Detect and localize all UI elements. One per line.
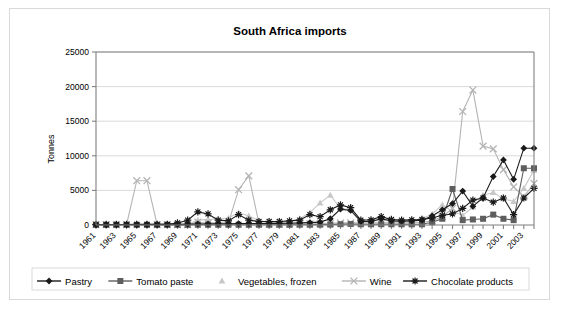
series-line [96,188,534,224]
data-point-marker [337,221,343,227]
data-series-layer [92,87,537,228]
data-point-marker [450,186,456,192]
y-tick-label: 5000 [70,185,89,195]
data-point-marker [490,199,497,206]
data-point-marker [490,189,497,195]
y-tick-label: 25000 [65,47,89,57]
series-line [96,148,534,224]
legend-label: Vegetables, frozen [238,276,317,287]
legend-label: Wine [370,276,392,287]
chart-title-group: South Africa imports [233,25,346,37]
data-point-marker [510,184,517,191]
chart-title: South Africa imports [233,25,346,37]
y-tick-label: 15000 [65,116,89,126]
series-line [96,170,534,224]
data-point-marker [317,199,324,205]
legend-label: Chocolate products [431,276,513,287]
data-point-marker [235,211,242,218]
data-point-marker [470,216,476,222]
data-point-marker [490,145,497,152]
data-point-marker [204,210,211,217]
data-point-marker [510,211,517,218]
y-axis-label-group: Tonnes [46,134,56,164]
x-tick-label: 1977 [240,230,261,251]
grid-lines [96,52,534,190]
x-tick-label: 1961 [77,230,98,251]
x-tick-label: 1963 [97,230,118,251]
data-point-marker [348,221,354,227]
x-tick-label: 2001 [484,230,505,251]
x-tick-label: 1995 [423,230,444,251]
x-tick-label: 1965 [118,230,139,251]
chart-legend: PastryTomato pasteVegetables, frozenWine… [32,268,529,290]
x-tick-label: 1993 [403,230,424,251]
x-tick-label: 2003 [505,230,526,251]
x-tick-label: 1997 [444,230,465,251]
x-axis-ticks: 1961196319651967196919711973197519771979… [77,225,534,251]
data-point-marker [490,212,496,218]
data-point-marker [520,145,527,152]
x-tick-label: 1973 [199,230,220,251]
data-point-marker [460,217,466,223]
y-tick-label: 0 [84,220,89,230]
x-tick-label: 1987 [342,230,363,251]
series-line [96,168,534,225]
data-point-marker [117,278,123,284]
x-tick-label: 1969 [158,230,179,251]
data-point-marker [306,211,313,218]
data-point-marker [327,206,334,213]
y-axis-ticks: 0500010000150002000025000 [65,47,96,230]
data-point-marker [500,166,507,173]
x-tick-label: 1981 [281,230,302,251]
x-tick-label: 1967 [138,230,159,251]
y-axis-label: Tonnes [46,134,56,164]
data-point-marker [521,165,527,171]
y-tick-label: 20000 [65,82,89,92]
data-point-marker [500,216,506,222]
chart-svg: South Africa imports Tonnes 050001000015… [10,9,549,299]
data-point-marker [490,173,497,180]
chart-container: South Africa imports Tonnes 050001000015… [9,8,550,300]
series-tomato-paste [93,165,537,228]
data-point-marker [327,192,334,198]
x-tick-label: 1983 [301,230,322,251]
data-point-marker [520,185,527,191]
data-point-marker [480,216,486,222]
data-point-marker [500,157,507,164]
data-point-marker [235,186,242,193]
legend-label: Tomato paste [136,276,193,287]
x-tick-label: 1991 [383,230,404,251]
x-tick-label: 1985 [321,230,342,251]
y-tick-label: 10000 [65,151,89,161]
x-tick-label: 1989 [362,230,383,251]
x-tick-label: 1979 [260,230,281,251]
x-tick-label: 1999 [464,230,485,251]
legend-label: Pastry [65,276,92,287]
data-point-marker [510,176,517,183]
x-tick-label: 1975 [220,230,241,251]
x-tick-label: 1971 [179,230,200,251]
